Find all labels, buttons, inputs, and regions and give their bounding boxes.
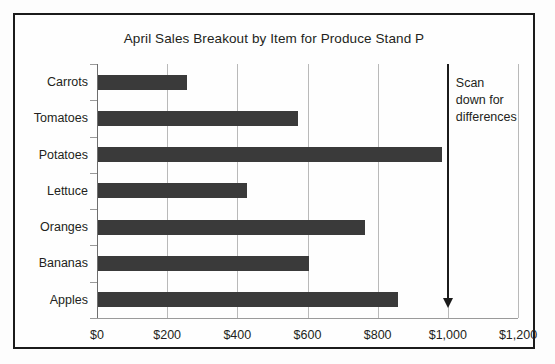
gridline-1200 — [518, 64, 519, 318]
annotation-text-line-2: down for — [456, 92, 504, 108]
category-label-wrap: Lettuce — [97, 173, 98, 209]
bar-potatoes — [98, 147, 442, 162]
category-label-wrap: Tomatoes — [97, 100, 98, 136]
y-axis-tick — [90, 318, 97, 319]
x-tick-label-400: $400 — [223, 328, 251, 342]
x-tick-label-0: $0 — [90, 328, 104, 342]
bar-carrots — [98, 75, 187, 90]
annotation-text-line-1: Scan — [456, 75, 485, 91]
bar-row — [98, 137, 442, 173]
x-tick-label-1000: $1,000 — [429, 328, 467, 342]
bar-row — [98, 282, 398, 318]
y-axis-tick — [90, 100, 97, 101]
category-label-wrap: Bananas — [97, 245, 98, 281]
category-label-oranges: Oranges — [40, 209, 88, 245]
x-axis-line — [97, 318, 518, 319]
screenshot-root: April Sales Breakout by Item for Produce… — [0, 0, 555, 364]
category-label-carrots: Carrots — [47, 64, 88, 100]
chart-title: April Sales Breakout by Item for Produce… — [15, 31, 533, 46]
y-axis-tick — [90, 137, 97, 138]
category-label-wrap: Carrots — [97, 64, 98, 100]
bar-bananas — [98, 256, 309, 271]
category-label-bananas: Bananas — [39, 245, 88, 281]
y-axis-tick — [90, 209, 97, 210]
gridline-800 — [378, 64, 379, 318]
bar-tomatoes — [98, 111, 298, 126]
bar-row — [98, 209, 365, 245]
y-axis-tick — [90, 282, 97, 283]
category-label-lettuce: Lettuce — [47, 173, 88, 209]
annotation-arrow-line — [447, 64, 449, 299]
category-label-apples: Apples — [50, 282, 88, 318]
bar-oranges — [98, 220, 365, 235]
x-tick-label-200: $200 — [153, 328, 181, 342]
bar-row — [98, 100, 298, 136]
category-label-potatoes: Potatoes — [39, 137, 88, 173]
x-tick-label-1200: $1,200 — [499, 328, 537, 342]
annotation-text-line-3: differences — [456, 109, 517, 125]
bar-row — [98, 173, 247, 209]
chart-frame: April Sales Breakout by Item for Produce… — [13, 13, 535, 349]
bar-row — [98, 64, 187, 100]
y-axis-tick — [90, 64, 97, 65]
annotation-arrow-head — [443, 298, 453, 308]
category-label-wrap: Oranges — [97, 209, 98, 245]
bar-apples — [98, 292, 398, 307]
x-tick-label-600: $600 — [294, 328, 322, 342]
bar-lettuce — [98, 183, 247, 198]
y-axis-tick — [90, 245, 97, 246]
x-tick-label-800: $800 — [364, 328, 392, 342]
category-label-wrap: Potatoes — [97, 137, 98, 173]
plot-area: $0$200$400$600$800$1,000$1,200CarrotsTom… — [97, 64, 518, 318]
category-label-tomatoes: Tomatoes — [34, 100, 88, 136]
category-label-wrap: Apples — [97, 282, 98, 318]
bar-row — [98, 245, 309, 281]
y-axis-tick — [90, 173, 97, 174]
